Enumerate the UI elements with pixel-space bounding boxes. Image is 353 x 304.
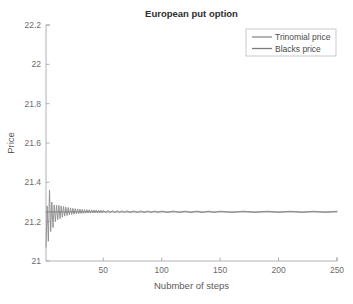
y-tick-label: 21.6	[24, 138, 41, 148]
x-tick-label: 50	[99, 265, 109, 275]
y-tick-label: 21.4	[24, 177, 41, 187]
y-tick-label: 21.2	[24, 217, 41, 227]
chart-plot: 2121.221.421.621.82222.250100150200250 T…	[0, 0, 353, 304]
chart-title: European put option	[145, 8, 238, 19]
y-tick-label: 22.2	[24, 20, 41, 30]
y-tick-label: 21	[32, 256, 42, 266]
y-axis-label: Price	[5, 132, 16, 154]
x-tick-label: 150	[213, 265, 227, 275]
chart-legend[interactable]: Trinomial priceBlacks price	[246, 29, 336, 56]
x-tick-label: 200	[271, 265, 285, 275]
y-tick-label: 22	[32, 59, 42, 69]
x-tick-label: 250	[330, 265, 344, 275]
figure-canvas: 2121.221.421.621.82222.250100150200250 T…	[0, 0, 353, 304]
x-tick-label: 100	[155, 265, 169, 275]
legend-label-1: Trinomial price	[275, 32, 331, 42]
x-axis-label: Nubmber of steps	[154, 280, 229, 291]
legend-label-2: Blacks price	[275, 44, 321, 54]
y-tick-label: 21.8	[24, 99, 41, 109]
